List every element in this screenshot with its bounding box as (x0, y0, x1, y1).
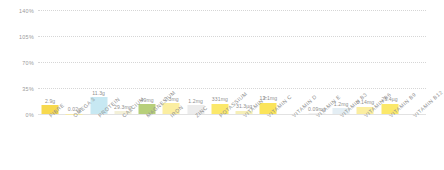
bar-slot: 0.02g (62, 10, 86, 114)
bar-value-label: 331mg (212, 96, 228, 102)
bar-value-label: 11.3g (92, 90, 105, 96)
y-axis-tick-label: 0% (26, 112, 34, 118)
y-axis-tick-label: 105% (19, 34, 34, 40)
bar-slot: 331mg (208, 10, 232, 114)
y-axis-tick-label: 70% (22, 60, 34, 66)
y-axis-tick-label: 140% (19, 8, 34, 14)
y-axis-tick-label: 35% (22, 86, 34, 92)
bar-slot: 1.2mg (184, 10, 208, 114)
bar-series: 2.9g0.02g11.3g29.3mg49mg2.3mg1.2mg331mg3… (38, 10, 426, 114)
x-axis-labels: FIBREOMEGA 3PROTEINCALCIUMMAGNESIUMIRONZ… (38, 114, 426, 170)
plot-area: 140%105%70%35%0% 2.9g0.02g11.3g29.3mg49m… (38, 10, 426, 114)
bar-slot: 2.9g (38, 10, 62, 114)
bar-value-label: 1.2mg (188, 98, 203, 104)
bar-value-label: 2.9g (45, 98, 55, 104)
